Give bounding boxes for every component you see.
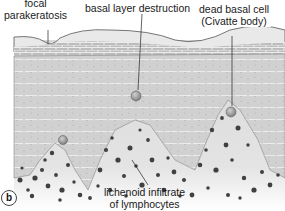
label-lichenoid-infiltrate: lichenoid infiltrate of lymphocytes [104, 186, 185, 210]
panel-label: b [1, 190, 17, 206]
label-dead-basal-cell: dead basal cell (Civatte body) [197, 3, 271, 27]
label-text: basal layer destruction [85, 2, 190, 14]
label-line-1: lichenoid infiltrate [104, 186, 185, 198]
label-line-1: dead basal cell [199, 3, 269, 15]
label-line-2: of lymphocytes [104, 198, 185, 210]
label-line-1: focal [4, 0, 67, 9]
label-focal-parakeratosis: focal parakeratosis [4, 0, 67, 21]
label-basal-layer-destruction: basal layer destruction [85, 2, 190, 14]
label-line-2: parakeratosis [4, 9, 67, 21]
lichen-planus-diagram [0, 0, 285, 211]
label-line-2: (Civatte body) [199, 15, 269, 27]
